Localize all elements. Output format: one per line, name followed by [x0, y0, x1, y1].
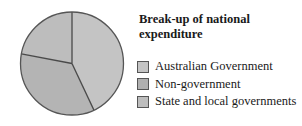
- chart-title: Break-up of national expenditure: [139, 12, 299, 42]
- legend-label: Australian Government: [155, 59, 273, 74]
- legend-swatch-icon: [137, 78, 149, 90]
- legend: Australian Government Non-government Sta…: [137, 58, 296, 111]
- legend-label: Non-government: [155, 77, 240, 92]
- legend-label: State and local governments: [155, 94, 296, 109]
- legend-swatch-icon: [137, 61, 149, 73]
- legend-swatch-icon: [137, 96, 149, 108]
- pie-chart: [0, 0, 140, 126]
- legend-item-state-local: State and local governments: [137, 93, 296, 111]
- legend-item-australian-government: Australian Government: [137, 58, 296, 76]
- legend-item-non-government: Non-government: [137, 76, 296, 94]
